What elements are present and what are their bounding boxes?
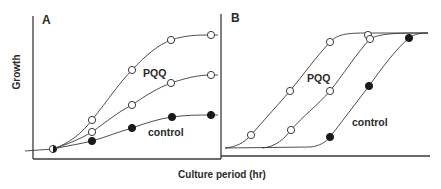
open-circle-marker	[326, 87, 333, 94]
panel-a-pqq-annotation: PQQ	[143, 67, 166, 79]
open-circle-marker	[88, 128, 95, 135]
open-circle-marker	[128, 66, 135, 73]
filled-circle-marker	[365, 82, 372, 89]
open-circle-marker	[366, 35, 373, 42]
chart-svg: A PQQ control B PQQ control Growth Cultu…	[0, 0, 441, 189]
x-axis-title: Culture period (hr)	[178, 169, 266, 180]
panel-a-markers	[49, 31, 214, 152]
open-circle-marker	[287, 126, 294, 133]
panel-b-control-annotation: control	[352, 116, 388, 128]
open-circle-marker	[207, 71, 214, 78]
panel-a-control-annotation: control	[148, 126, 184, 138]
open-circle-marker	[326, 38, 333, 45]
open-circle-marker	[247, 131, 254, 138]
panel-a: A PQQ control	[25, 13, 221, 159]
filled-circle-marker	[88, 137, 95, 144]
panel-b-label: B	[231, 11, 240, 25]
filled-circle-marker	[207, 111, 214, 118]
half-filled-start-marker	[49, 145, 56, 152]
open-circle-marker	[128, 101, 135, 108]
filled-circle-marker	[128, 124, 135, 131]
open-circle-marker	[167, 36, 174, 43]
panel-b: B PQQ control	[221, 11, 430, 156]
panel-a-curves	[25, 35, 218, 151]
open-circle-marker	[286, 87, 293, 94]
open-circle-marker	[207, 31, 214, 38]
y-axis-title: Growth	[11, 55, 22, 90]
series-line-pqq-high	[25, 35, 218, 151]
filled-circle-marker	[405, 34, 412, 41]
series-line-pqq-low	[53, 75, 218, 149]
series-line-control	[53, 115, 218, 149]
filled-circle-marker	[326, 133, 333, 140]
open-circle-marker	[167, 79, 174, 86]
growth-chart-figure: A PQQ control B PQQ control Growth Cultu…	[0, 0, 441, 189]
filled-circle-marker	[168, 113, 175, 120]
panel-a-label: A	[42, 13, 51, 27]
panel-b-markers	[247, 31, 412, 140]
panel-b-pqq-annotation: PQQ	[307, 72, 330, 84]
open-circle-marker	[88, 116, 95, 123]
